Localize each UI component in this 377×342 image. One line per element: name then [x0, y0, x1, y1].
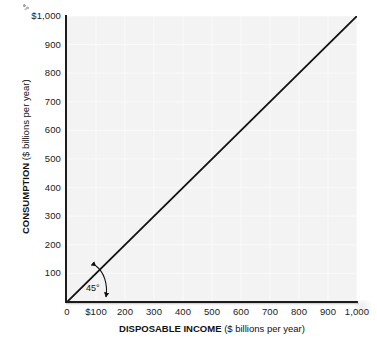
- x-tick-label: 700: [262, 307, 278, 317]
- y-axis-title-bold: CONSUMPTION: [20, 163, 31, 234]
- scan-artifact-corner: [355, 300, 373, 316]
- y-axis-title-regular: ($ billions per year): [20, 79, 31, 160]
- x-tick-label: 900: [320, 307, 336, 317]
- y-tick-label: 900: [45, 40, 61, 50]
- y-tick-label: 700: [45, 97, 61, 107]
- y-tick-label: 100: [45, 268, 61, 278]
- y-tick-label: 800: [45, 68, 61, 78]
- x-axis-title-bold: DISPOSABLE INCOME: [119, 323, 221, 334]
- scan-artifact: [22, 2, 30, 11]
- y-tick-label: 500: [45, 154, 61, 164]
- x-axis-title: DISPOSABLE INCOME ($ billions per year): [67, 324, 357, 334]
- x-tick-label: 500: [204, 307, 220, 317]
- angle-annotation-arrow: [60, 250, 140, 310]
- y-tick-label: $1,000: [31, 11, 61, 21]
- y-axis-title: CONSUMPTION ($ billions per year): [21, 47, 31, 267]
- consumption-function-chart: 100200300400500600700800900$1,000 0$1002…: [0, 0, 377, 342]
- angle-45-label: 45°: [86, 284, 100, 293]
- y-tick-label: 600: [45, 125, 61, 135]
- y-tick-label: 300: [45, 211, 61, 221]
- x-axis-title-regular: ($ billions per year): [224, 323, 305, 334]
- x-tick-label: 400: [175, 307, 191, 317]
- x-tick-label: 300: [146, 307, 162, 317]
- y-tick-label: 400: [45, 183, 61, 193]
- x-tick-label: 800: [291, 307, 307, 317]
- y-tick-label: 200: [45, 240, 61, 250]
- x-tick-label: 600: [233, 307, 249, 317]
